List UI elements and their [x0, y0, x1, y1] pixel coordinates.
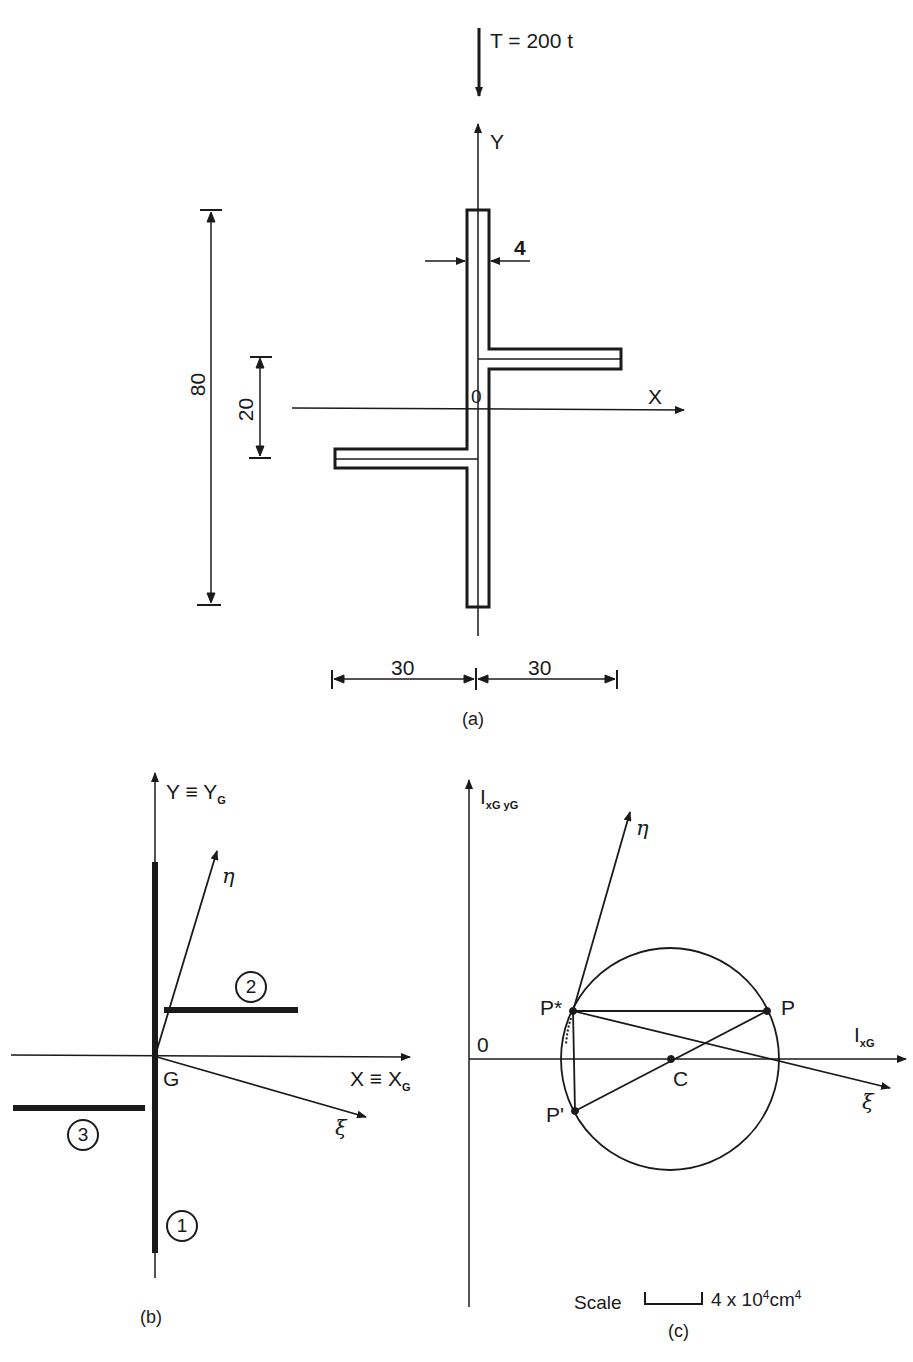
scale-label: Scale [574, 1293, 622, 1312]
point-c [668, 1056, 675, 1063]
figure-b [11, 773, 410, 1278]
caption-b: (b) [140, 1308, 162, 1326]
y-axis-label-c: IxG yG [480, 786, 518, 811]
scale-bar [645, 1292, 702, 1304]
point-p-prime [572, 1108, 579, 1115]
caption-a: (a) [462, 710, 484, 728]
line-pstar-pprime [573, 1011, 575, 1111]
dim-80-label: 80 [187, 373, 208, 396]
eta-label-b: η [222, 866, 235, 887]
dim-thickness-label: 4 [514, 237, 526, 258]
point-p-prime-label: P' [546, 1104, 564, 1125]
center-label: C [673, 1068, 688, 1089]
origin-label-c: 0 [477, 1034, 489, 1055]
figure-a [197, 28, 684, 690]
diagram-canvas [0, 0, 913, 1362]
y-axis-label-a: Y [490, 131, 504, 152]
element-2-marker: 2 [235, 971, 267, 1003]
scale-value: 4 x 104cm4 [711, 1289, 801, 1309]
eta-label-c: η [636, 818, 649, 839]
xi-axis-b [157, 1057, 366, 1117]
origin-label-a: 0 [471, 387, 482, 406]
x-axis-label-b: X ≡ XG [350, 1068, 411, 1093]
eta-axis-c [573, 812, 630, 1011]
x-axis-b [11, 1055, 410, 1057]
centroid-label: G [163, 1068, 179, 1089]
figure-c [469, 780, 906, 1307]
dim-30-right-label: 30 [528, 657, 551, 678]
load-label: T = 200 t [490, 30, 573, 51]
element-1-marker: 1 [166, 1210, 198, 1242]
y-axis-label-b: Y ≡ YG [166, 781, 226, 806]
x-axis-label-a: X [648, 386, 662, 407]
xi-axis-c [573, 1011, 890, 1088]
dim-20-label: 20 [235, 398, 256, 421]
caption-c: (c) [668, 1322, 689, 1340]
dim-30-left-label: 30 [391, 657, 414, 678]
point-p-star [570, 1008, 577, 1015]
x-axis-label-c: IxG [854, 1024, 875, 1049]
point-p-label: P [781, 997, 795, 1018]
element-3-marker: 3 [67, 1119, 99, 1151]
eta-axis-b [156, 851, 217, 1053]
xi-label-c: ξ [862, 1092, 874, 1113]
xi-label-b: ξ [335, 1118, 347, 1139]
point-p [764, 1008, 771, 1015]
point-p-star-label: P* [540, 997, 562, 1018]
